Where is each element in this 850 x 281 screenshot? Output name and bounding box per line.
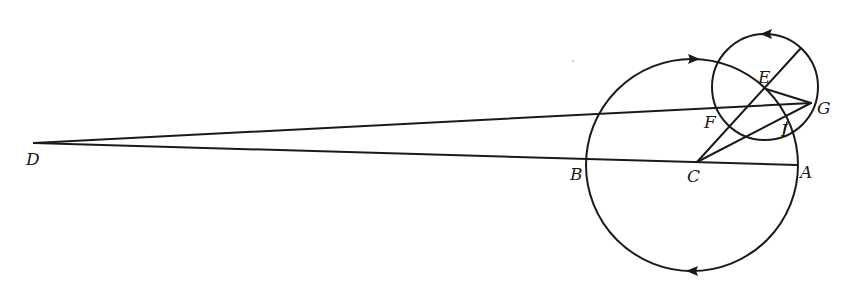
epicycle-diagram: A B C D E F G I (0, 0, 850, 281)
label-E: E (757, 67, 771, 87)
label-C: C (687, 166, 700, 186)
label-F: F (703, 112, 717, 132)
label-D: D (25, 149, 40, 169)
line-D-G (34, 103, 811, 143)
label-I: I (780, 120, 788, 140)
scan-speck (572, 60, 574, 62)
label-G: G (817, 98, 831, 118)
label-B: B (569, 164, 583, 184)
label-A: A (798, 162, 812, 182)
line-D-A (34, 143, 797, 165)
